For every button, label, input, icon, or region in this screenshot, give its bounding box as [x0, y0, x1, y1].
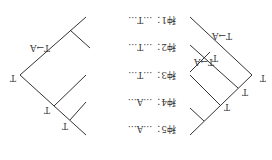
row-species-4: 种4：…A…: [128, 97, 176, 106]
species-label: 种4：: [152, 97, 176, 107]
sequence-state: …A…: [128, 97, 153, 107]
species-label: 种1：: [152, 15, 176, 25]
tree-a-branches: [20, 17, 90, 135]
tree-b-mutation: T→A: [212, 31, 232, 40]
sequence-state: …A…: [128, 124, 153, 134]
species-label: 种5：: [152, 124, 176, 134]
tree-b-node-state: T: [242, 87, 248, 96]
tree-a-root-state: T: [10, 73, 16, 82]
row-species-3: 种3：…T…: [128, 70, 176, 79]
row-species-2: 种2：…T…: [128, 42, 176, 51]
species-label: 种3：: [152, 70, 176, 80]
tree-a-node-state: T: [44, 105, 50, 114]
row-species-5: 种5：…A…: [128, 124, 176, 133]
tree-b-root-state: T: [260, 73, 266, 82]
tree-b-node-state: T: [224, 102, 230, 111]
sequence-state: …T…: [128, 15, 152, 25]
sequence-state: …T…: [128, 42, 152, 52]
row-species-1: 种1：…T…: [128, 15, 176, 24]
species-label: 种2：: [152, 42, 176, 52]
tree-a-node-state: T: [62, 121, 68, 130]
phylogeny-figure: 种1：…T… 种2：…T… 种3：…T… 种4：…A… 种5：…A… T T T…: [0, 0, 272, 160]
tree-a-mutation: T→A: [30, 43, 50, 52]
sequence-state: …T…: [128, 70, 152, 80]
tree-b-mutation: T→A: [194, 57, 214, 66]
